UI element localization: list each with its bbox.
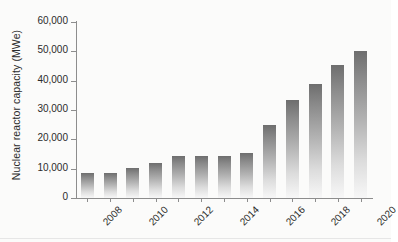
x-axis-tick-mark: [270, 198, 271, 202]
x-axis-tick-mark: [292, 198, 293, 202]
y-axis-tick-mark: [71, 139, 76, 140]
bar: [263, 125, 276, 198]
y-axis-tick-mark: [71, 169, 76, 170]
x-axis-tick-mark: [178, 198, 179, 202]
y-axis-tick-mark: [71, 81, 76, 82]
x-axis-tick-mark: [315, 198, 316, 202]
y-axis-tick-mark: [71, 22, 76, 23]
y-axis-tick-mark: [71, 110, 76, 111]
bar: [309, 84, 322, 198]
x-axis-tick-mark: [87, 198, 88, 202]
x-axis-tick-mark: [247, 198, 248, 202]
y-axis-tick-label: 10,000: [37, 162, 68, 173]
bar: [286, 100, 299, 198]
x-axis-tick-label: 2018: [329, 204, 353, 228]
x-axis-tick-mark: [224, 198, 225, 202]
bar: [195, 156, 208, 198]
x-axis-tick-mark: [338, 198, 339, 202]
bar: [104, 173, 117, 198]
x-axis-tick-label: 2012: [192, 204, 216, 228]
bar: [354, 51, 367, 198]
x-axis-tick-label: 2010: [146, 204, 170, 228]
bar: [172, 156, 185, 198]
y-axis-tick-label: 60,000: [37, 15, 68, 26]
bar: [331, 65, 344, 198]
bar: [218, 156, 231, 198]
y-axis-tick-label: 20,000: [37, 132, 68, 143]
y-axis-tick-label: 40,000: [37, 74, 68, 85]
x-axis-tick-mark: [110, 198, 111, 202]
bar: [81, 173, 94, 198]
y-axis-tick-label: 50,000: [37, 44, 68, 55]
plot-area: 010,00020,00030,00040,00050,00060,000: [76, 22, 372, 198]
bar: [240, 153, 253, 198]
x-axis-tick-mark: [201, 198, 202, 202]
y-axis-tick-label: 0: [62, 191, 68, 202]
x-axis-tick-mark: [133, 198, 134, 202]
x-axis-tick-mark: [156, 198, 157, 202]
x-axis-tick-label: 2016: [283, 204, 307, 228]
page-scan-rule: [0, 238, 391, 239]
x-axis-tick-label: 2020: [374, 204, 398, 228]
x-axis-tick-label: 2014: [238, 204, 262, 228]
x-axis-tick-label: 2008: [101, 204, 125, 228]
y-axis-tick-mark: [71, 198, 76, 199]
x-axis-tick-mark: [361, 198, 362, 202]
bar: [149, 163, 162, 198]
y-axis-tick-label: 30,000: [37, 103, 68, 114]
y-axis-tick-mark: [71, 51, 76, 52]
bar: [126, 168, 139, 198]
y-axis-title: Nuclear reactor capacity (MWe): [8, 12, 24, 198]
